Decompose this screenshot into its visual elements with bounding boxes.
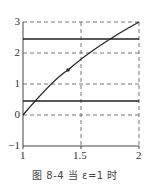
y-tick-label-0: 0: [15, 109, 21, 120]
grid-lines: [23, 22, 139, 146]
point-marker: [66, 68, 70, 72]
y-tick-label-neg1: −1: [8, 140, 20, 151]
chart-plot-area: [0, 0, 150, 160]
x-tick-label-2: 2: [136, 150, 142, 161]
y-tick-label-2: 2: [15, 47, 21, 58]
x-tick-label-1: 1: [20, 150, 26, 161]
bound-lines: [23, 39, 139, 101]
figure-caption: 图 8-4 当 ε=1 时: [0, 167, 150, 182]
y-tick-label-1: 1: [15, 78, 21, 89]
y-tick-label-3: 3: [15, 16, 21, 27]
x-tick-label-1.5: 1.5: [73, 150, 87, 161]
